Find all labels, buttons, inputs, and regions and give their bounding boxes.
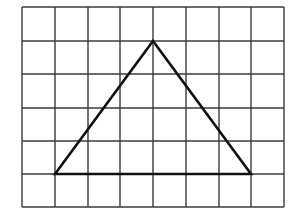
figure-container: [0, 0, 300, 216]
grid-triangle-figure: [0, 0, 300, 216]
